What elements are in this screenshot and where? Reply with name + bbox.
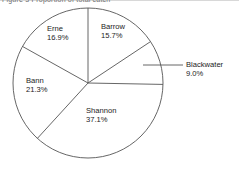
slice-label-erne-name: Erne [47,24,63,33]
slice-label-bann-value: 21.3% [26,85,48,94]
pie-chart-figure: Figure 3 Proportion of total catch Erne … [0,0,239,170]
slice-label-blackwater-value: 9.0% [186,69,223,78]
slice-label-bann-name: Bann [26,76,44,85]
slice-label-blackwater-name: Blackwater [186,60,223,69]
slice-label-shannon-value: 37.1% [86,115,116,124]
slice-label-shannon: Shannon 37.1% [86,106,116,125]
slice-label-barrow-name: Barrow [101,22,125,31]
slice-label-barrow: Barrow 15.7% [101,22,125,41]
slice-label-shannon-name: Shannon [86,106,116,115]
slice-label-barrow-value: 15.7% [101,31,125,40]
slice-label-erne: Erne 16.9% [47,24,69,43]
slice-label-bann: Bann 21.3% [26,76,48,95]
slice-label-blackwater: Blackwater 9.0% [186,60,223,79]
slice-label-erne-value: 16.9% [47,33,69,42]
